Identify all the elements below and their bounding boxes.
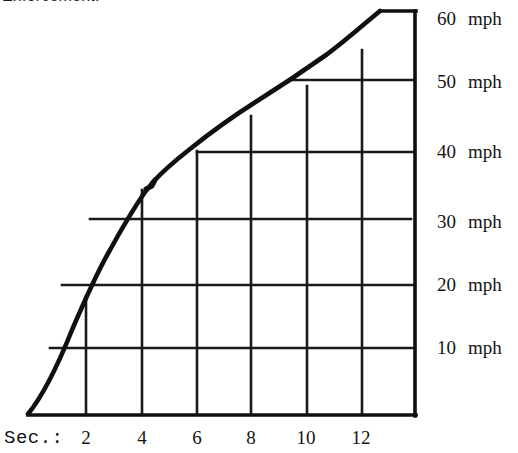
x-tick-label-4: 4	[137, 427, 147, 449]
y-tick-label-60: 60mph	[437, 9, 502, 28]
grid-lines	[50, 50, 415, 415]
y-tick-value-40: 40	[437, 142, 461, 161]
x-tick-label-6: 6	[192, 427, 202, 449]
y-tick-label-10: 10mph	[437, 338, 502, 357]
y-tick-unit-50: mph	[468, 71, 502, 92]
y-tick-unit-40: mph	[468, 141, 502, 162]
y-tick-label-40: 40mph	[437, 142, 502, 161]
y-tick-label-30: 30mph	[437, 212, 502, 231]
x-axis-label-row: Sec.: 2 4 6 8 10 12	[0, 427, 518, 453]
y-tick-unit-10: mph	[468, 337, 502, 358]
y-tick-value-60: 60	[437, 9, 461, 28]
y-tick-label-50: 50mph	[437, 72, 502, 91]
y-tick-value-10: 10	[437, 338, 461, 357]
y-tick-value-50: 50	[437, 72, 461, 91]
y-tick-value-20: 20	[437, 275, 461, 294]
x-tick-label-2: 2	[81, 427, 91, 449]
x-axis-title: Sec.:	[4, 427, 64, 449]
y-tick-unit-20: mph	[468, 274, 502, 295]
x-tick-label-10: 10	[297, 427, 316, 449]
x-tick-label-12: 12	[352, 427, 371, 449]
acceleration-curve	[28, 11, 380, 414]
y-tick-unit-60: mph	[468, 8, 502, 29]
curve-kink-notch	[146, 180, 155, 189]
x-tick-label-8: 8	[246, 427, 256, 449]
y-tick-unit-30: mph	[468, 211, 502, 232]
y-tick-value-30: 30	[437, 212, 461, 231]
chart-root: Enforcement.	[0, 0, 518, 453]
y-tick-label-20: 20mph	[437, 275, 502, 294]
